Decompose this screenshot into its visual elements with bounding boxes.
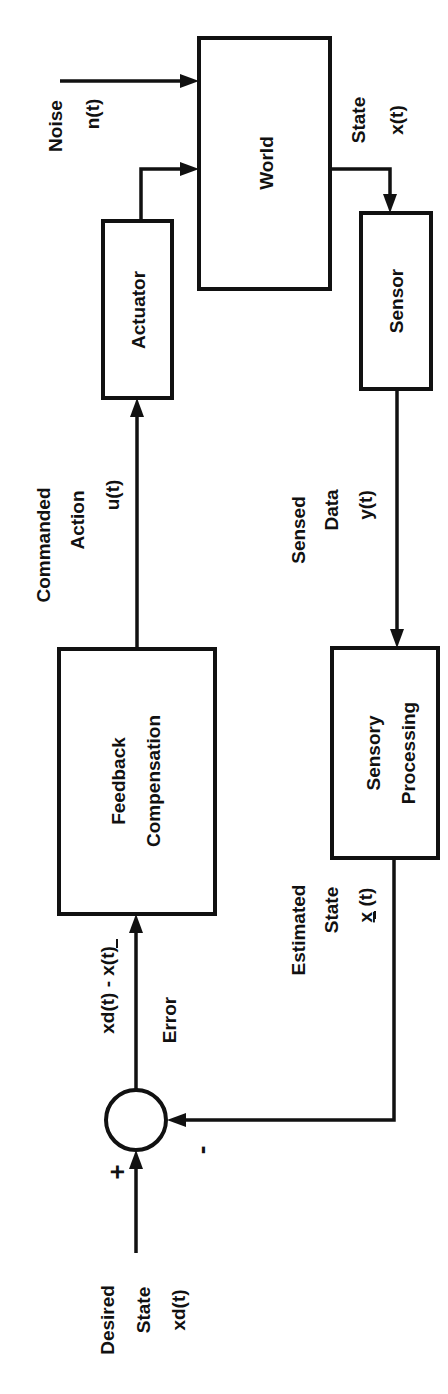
world-label: World	[256, 136, 277, 189]
estimated-label-line3: x (t)	[355, 888, 376, 923]
sensory-label-line1: Sensory	[363, 715, 384, 790]
minus-sign: -	[186, 1146, 216, 1155]
error-label: Error	[159, 996, 180, 1043]
sensed-label-line1: Sensed	[288, 496, 309, 564]
sensed-label-line2: Data	[321, 489, 342, 531]
desired-label-line3: xd(t)	[168, 1289, 189, 1330]
sensed-arrowhead-icon	[390, 629, 404, 648]
estimated-arrowhead-icon	[167, 1113, 186, 1127]
commanded-label-line1: Commanded	[33, 487, 54, 602]
commanded-label-line3: u(t)	[102, 480, 123, 511]
desired-label-line2: State	[133, 1287, 154, 1333]
error-expr-b: x	[97, 965, 118, 976]
actuator-label: Actuator	[128, 270, 149, 349]
error-expr-a: xd(t) -	[97, 976, 118, 1034]
feedback-label-line1: Feedback	[108, 737, 129, 825]
error-expr-c: (t)	[97, 946, 118, 965]
state-arrowhead-icon	[383, 194, 397, 213]
actuator-to-world-wire	[141, 169, 188, 221]
commanded-arrowhead-icon	[130, 398, 144, 417]
commanded-label-line2: Action	[67, 490, 88, 549]
sensor-label: Sensor	[386, 268, 407, 333]
noise-label-line2: n(t)	[82, 99, 103, 130]
summing-junction-icon	[106, 1090, 166, 1150]
desired-label-line1: Desired	[97, 1285, 118, 1355]
feedback-compensation-block	[59, 649, 215, 914]
estimated-label-line2: State	[321, 887, 342, 933]
sensed-label-line3: y(t)	[355, 490, 376, 520]
error-expression: xd(t) - x(t)	[97, 946, 118, 1034]
estimated-label-line1: Estimated	[288, 885, 309, 976]
estimated-t: (t)	[355, 888, 376, 912]
control-loop-diagram: World Actuator Sensor Feedback Compensat…	[0, 0, 448, 1394]
plus-sign: +	[102, 1164, 132, 1179]
noise-arrowhead-icon	[180, 74, 199, 88]
state-wire	[330, 169, 390, 202]
feedback-label-line2: Compensation	[143, 715, 164, 847]
error-arrowhead-icon	[129, 914, 143, 933]
state-label-line1: State	[348, 97, 369, 143]
actuator-arrowhead-icon	[180, 162, 199, 176]
sensory-label-line2: Processing	[398, 702, 419, 804]
noise-label-line1: Noise	[45, 100, 66, 152]
estimated-x-underlined: x	[355, 911, 376, 922]
sensory-processing-block	[332, 648, 438, 858]
state-label-line2: x(t)	[386, 105, 407, 135]
